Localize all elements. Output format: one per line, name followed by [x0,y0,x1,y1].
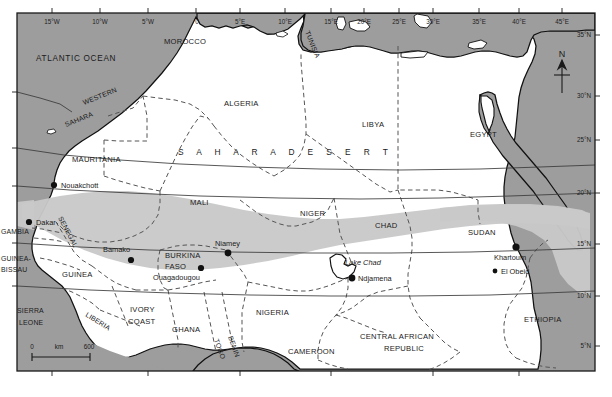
label-sudan: SUDAN [468,228,496,237]
label-gambia: GAMBIA [1,228,29,235]
sahara-desert-label: S A H A R A D E S E R T [178,147,393,157]
label-ivory-coast: IVORY [130,305,155,314]
longitude-label: 0 [195,18,199,25]
longitude-label: 15°E [324,18,338,25]
label-guinea: GUINEA [62,270,93,279]
label-central-african-republic: CENTRAL AFRICAN [360,332,434,341]
map-figure: 15°W 10°W 5°W 0 5°E 10°E 15°E 20°E 25°E … [0,0,612,397]
label-algeria: ALGERIA [224,99,259,108]
longitude-label: 10°W [92,18,108,25]
city-dot-ndjamena [349,275,356,282]
latitude-label: 30°N [577,92,592,99]
latitude-label: 20°N [577,189,592,196]
longitude-label: 40°E [512,18,526,25]
label-sierra-leone: SIERRA [17,307,44,314]
scale-start-label: 0 [30,343,34,350]
label-niamey: Niamey [215,239,240,248]
sahel-band-west [17,200,34,230]
label-ivory-coast-2: COAST [128,317,156,326]
longitude-label: 5°W [142,18,154,25]
label-burkina-faso: BURKINA [165,251,201,260]
city-dot-bamako [128,257,134,263]
label-khartoum: Khartoum [494,253,526,262]
latitude-label: 5°N [580,342,591,349]
label-morocco: MOROCCO [164,37,206,46]
label-nigeria: NIGERIA [256,308,290,317]
city-dot-dakar [26,219,32,225]
longitude-label: 25°E [392,18,406,25]
city-dot-nouakchott [51,182,57,188]
label-lake-chad: Lake Chad [345,258,382,267]
city-dot-niamey [225,250,232,257]
label-nouakchott: Nouakchott [61,181,98,190]
city-dot-khartoum [512,243,519,250]
city-dot-ouagadougou [198,265,204,271]
scale-unit-label: km [55,343,64,350]
longitude-label: 30°E [426,18,440,25]
label-libya: LIBYA [362,120,385,129]
longitude-label: 15°W [44,18,60,25]
latitude-label: 15°N [577,240,592,247]
label-guinea-bissau: GUINEA- [1,255,31,262]
label-niger: NIGER [300,209,326,218]
label-burkina-faso-2: FASO [165,262,186,271]
longitude-label: 20°E [357,18,371,25]
label-mali: MALI [190,198,209,207]
label-ouagadougou: Ouagadougou [153,273,200,282]
label-cameroon: CAMEROON [288,347,335,356]
longitude-label: 5°E [235,18,245,25]
latitude-label: 25°N [577,136,592,143]
scale-end-label: 600 [84,343,95,350]
label-ndjamena: Ndjamena [358,274,393,283]
city-dot-el-obeid [493,269,498,274]
label-central-african-republic-2: REPUBLIC [384,344,424,353]
atlantic-ocean-label: ATLANTIC OCEAN [36,54,116,63]
map-body [17,13,595,371]
longitude-label: 35°E [472,18,486,25]
label-dakar: Dakar [36,218,56,227]
label-el-obeid: El Obeid [501,267,529,276]
compass-label: N [559,49,566,59]
longitude-label: 45°E [555,18,569,25]
label-egypt: EGYPT [470,130,497,139]
label-chad: CHAD [375,221,398,230]
label-sierra-leone-2: LEONE [19,319,44,326]
label-mauritania: MAURITANIA [72,155,121,164]
label-bamako: Bamako [103,245,130,254]
label-guinea-bissau-2: BISSAU [1,266,27,273]
longitude-label: 10°E [278,18,292,25]
latitude-label: 10°N [577,292,592,299]
label-ghana: GHANA [172,325,201,334]
label-ethiopia: ETHIOPIA [524,315,562,324]
map-canvas: 15°W 10°W 5°W 0 5°E 10°E 15°E 20°E 25°E … [0,0,612,397]
latitude-label: 35°N [577,31,592,38]
